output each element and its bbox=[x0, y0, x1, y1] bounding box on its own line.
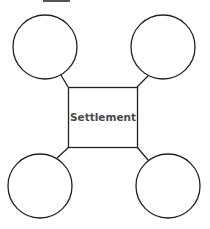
top-fragment-bar bbox=[43, 0, 70, 2]
branch-circle-top-right bbox=[131, 15, 195, 79]
connector-bottom-right bbox=[137, 147, 148, 160]
connector-top-right bbox=[137, 76, 148, 87]
center-label: Settlement bbox=[70, 111, 136, 123]
branch-circle-top-left bbox=[13, 15, 77, 79]
connector-bottom-left bbox=[57, 147, 69, 158]
branch-circle-bottom-right bbox=[136, 154, 200, 218]
branch-circle-bottom-left bbox=[8, 154, 72, 218]
spider-diagram: Settlement bbox=[0, 0, 210, 229]
connector-top-left bbox=[61, 75, 68, 87]
